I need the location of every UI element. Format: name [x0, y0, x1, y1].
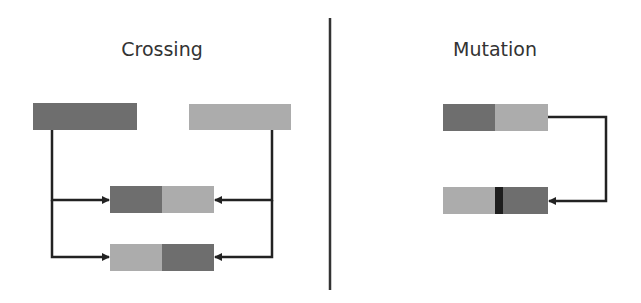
parent-a-chromosome [33, 103, 137, 130]
parent-b-to-child-2-arrow [215, 200, 272, 257]
dark-gene-segment [443, 104, 495, 131]
parent-b-to-child-1-arrow [215, 130, 272, 200]
light-gene-segment [110, 244, 162, 271]
mutated-chromosome [443, 187, 548, 214]
light-gene-segment [162, 186, 214, 213]
dark-gene-segment [33, 103, 137, 130]
child-2-chromosome [110, 244, 214, 271]
dark-gene-segment [503, 187, 548, 214]
mutation-marker [495, 187, 503, 214]
connector-lines [0, 0, 641, 303]
child-1-chromosome [110, 186, 214, 213]
parent-a-to-child-1-arrow [52, 130, 109, 200]
light-gene-segment [443, 187, 495, 214]
mutation-arrow [548, 117, 606, 201]
light-gene-segment [495, 104, 548, 131]
parent-a-to-child-2-arrow [52, 200, 109, 257]
dark-gene-segment [110, 186, 162, 213]
light-gene-segment [189, 104, 291, 130]
original-chromosome [443, 104, 548, 131]
parent-b-chromosome [189, 104, 291, 130]
dark-gene-segment [162, 244, 214, 271]
